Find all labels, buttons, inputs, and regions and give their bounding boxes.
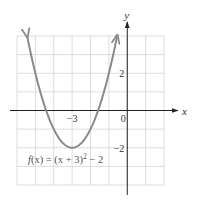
x-tick-label: 0 (121, 113, 126, 124)
x-tick-label: −3 (67, 113, 78, 124)
y-tick-label: 2 (119, 68, 124, 79)
parabola-chart: x y −302−2 f(x) = (x + 3)2 − 2 (0, 0, 197, 203)
x-axis-label: x (181, 105, 187, 117)
y-axis-label: y (123, 9, 129, 21)
function-label: f(x) = (x + 3)2 − 2 (28, 152, 103, 166)
function-constant: − 2 (87, 154, 103, 165)
y-tick-label: −2 (114, 143, 125, 154)
function-body: (x) = (x + 3) (31, 154, 84, 166)
